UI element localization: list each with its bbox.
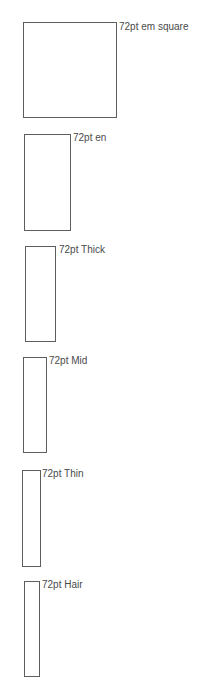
- hair-label: 72pt Hair: [42, 579, 83, 591]
- mid-label: 72pt Mid: [49, 355, 87, 367]
- en-label: 72pt en: [73, 132, 106, 144]
- thick-label: 72pt Thick: [59, 244, 105, 256]
- mid-box: [23, 357, 47, 453]
- hair-box: [24, 581, 40, 677]
- em-square-label: 72pt em square: [119, 21, 189, 33]
- thin-box: [22, 470, 41, 567]
- thick-box: [25, 246, 56, 342]
- thin-label: 72pt Thin: [42, 468, 84, 480]
- em-square-box: [23, 22, 117, 118]
- en-box: [24, 134, 71, 231]
